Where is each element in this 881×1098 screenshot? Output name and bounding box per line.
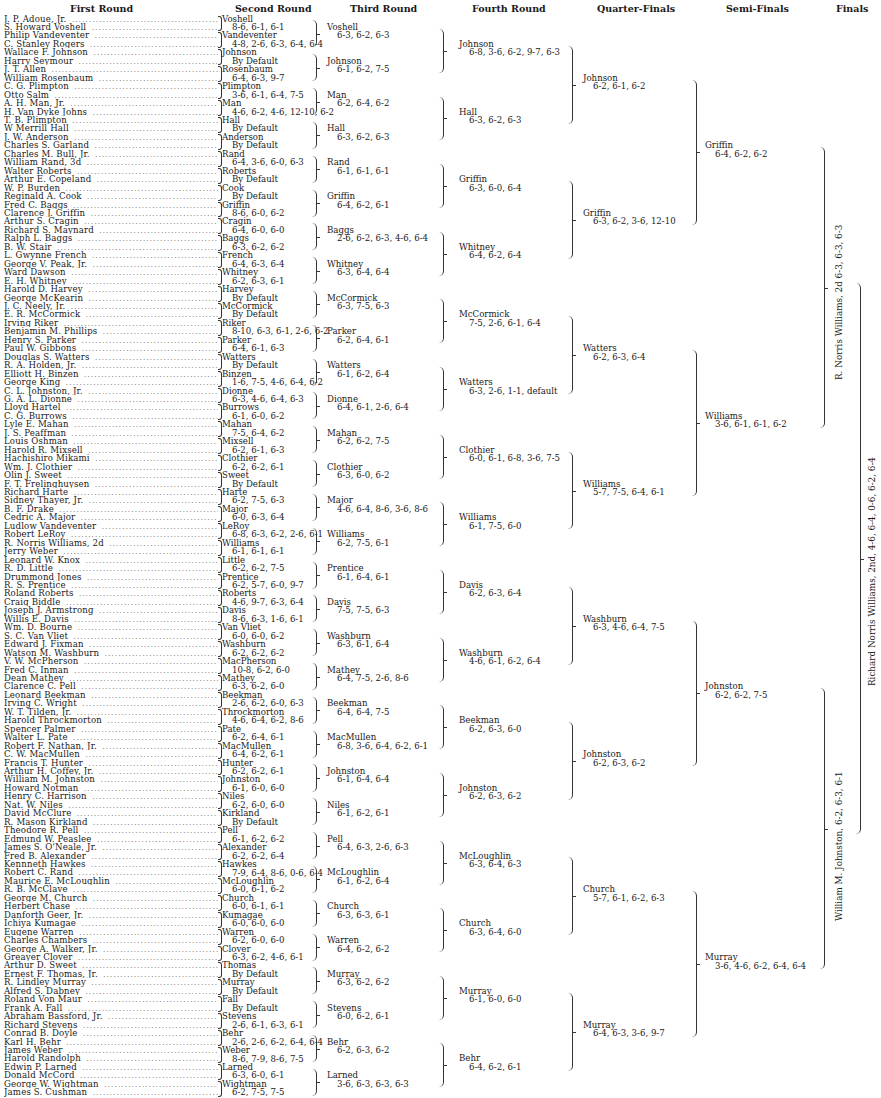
leader-dots: ........................................… bbox=[91, 142, 218, 150]
fourth-round-winner: Washburn4-6, 6-1, 6-2, 6-4 bbox=[459, 649, 541, 666]
player-name: Harry Seymour bbox=[4, 57, 75, 66]
match-score: 6-2, 6-4, 6-2 bbox=[327, 99, 389, 108]
player-name: W. P. Burden bbox=[4, 184, 62, 193]
player-name: B. F. Drake bbox=[4, 505, 56, 514]
first-round-player: Charles S. Garland .....................… bbox=[4, 141, 218, 150]
player-name: Paul W. Gibbons bbox=[4, 344, 78, 353]
player-name: J. C. Neely, Jr. bbox=[4, 302, 67, 311]
second-round-winner: Weber8-6, 7-9, 8-6, 7-5 bbox=[222, 1046, 304, 1063]
leader-dots: ........................................… bbox=[74, 396, 218, 404]
leader-dots: ........................................… bbox=[97, 776, 218, 784]
quarter-finals-winner: Murray6-4, 6-3, 3-6, 9-7 bbox=[583, 1021, 665, 1038]
match-score: 6-4, 6-2, 6-1 bbox=[459, 1063, 521, 1072]
match-bracket bbox=[437, 1043, 444, 1087]
third-round-winner: Washburn6-3, 6-1, 6-4 bbox=[327, 632, 389, 649]
match-score: 4-6, 6-1, 6-2, 6-4 bbox=[459, 657, 541, 666]
leader-dots: ........................................… bbox=[63, 599, 219, 607]
match-score: 6-1, 6-0, 6-0 bbox=[459, 995, 521, 1004]
second-round-winner: Whitney6-2, 6-3, 6-1 bbox=[222, 268, 284, 285]
first-round-player: Roland Roberts .........................… bbox=[4, 589, 218, 598]
player-name: E. H. Whitney bbox=[4, 277, 69, 286]
first-round-player: Ward Dawson ............................… bbox=[4, 268, 218, 277]
match-score: 6-0, 6-2, 6-1 bbox=[327, 1012, 389, 1021]
second-round-winner: Major6-0, 6-3, 6-4 bbox=[222, 505, 284, 522]
first-round-player: David McClure ..........................… bbox=[4, 809, 218, 818]
match-bracket bbox=[437, 97, 444, 141]
match-score: 6-3, 6-4, 6-3 bbox=[459, 860, 521, 869]
first-round-player: Wm. J. Clothier ........................… bbox=[4, 463, 218, 472]
fourth-round-winner: Watters6-3, 2-6, 1-1, default bbox=[459, 378, 558, 395]
fourth-round-winner: Johnston6-2, 6-3, 6-2 bbox=[459, 784, 521, 801]
leader-dots: ........................................… bbox=[67, 303, 218, 311]
first-round-player: R. A. Holden, Jr. ......................… bbox=[4, 361, 218, 370]
player-name: Leonard W. Knox bbox=[4, 556, 82, 565]
fourth-round-winner: Whitney6-4, 6-2, 6-4 bbox=[459, 243, 521, 260]
player-name: Watson M. Washburn bbox=[4, 649, 101, 658]
first-round-player: F. T. Frelinghuysen ....................… bbox=[4, 480, 218, 489]
match-score: 3-6, 4-6, 6-2, 6-4, 6-4 bbox=[705, 962, 806, 971]
header-fourth-round: Fourth Round bbox=[472, 3, 546, 14]
player-name: Cedric A. Major bbox=[4, 513, 77, 522]
first-round-player: Ernest F. Thomas, Jr. ..................… bbox=[4, 970, 218, 979]
third-round-winner: McLoughlin6-1, 6-2, 6-4 bbox=[327, 868, 389, 885]
match-bracket bbox=[690, 621, 697, 766]
match-score: 5-7, 6-1, 6-2, 6-3 bbox=[583, 894, 665, 903]
leader-dots: ........................................… bbox=[100, 946, 218, 954]
quarter-finals-winner: Williams5-7, 7-5, 6-4, 6-1 bbox=[583, 480, 665, 497]
match-score: 6-3, 6-4, 6-4 bbox=[327, 268, 389, 277]
third-round-winner: Man6-2, 6-4, 6-2 bbox=[327, 91, 389, 108]
leader-dots: ........................................… bbox=[90, 819, 218, 827]
first-round-player: Conrad B. Doyle ........................… bbox=[4, 1029, 218, 1038]
player-name: George A. Walker, Jr. bbox=[4, 945, 100, 954]
first-round-player: Willis E. Davis ........................… bbox=[4, 615, 218, 624]
match-bracket bbox=[690, 350, 697, 495]
player-name: Benjamin M. Phillips bbox=[4, 327, 99, 336]
player-name: Nat. W. Niles bbox=[4, 801, 65, 810]
leader-dots: ........................................… bbox=[96, 768, 219, 776]
leader-dots: ........................................… bbox=[79, 362, 219, 370]
match-bracket bbox=[310, 798, 317, 825]
leader-dots: ........................................… bbox=[62, 379, 218, 387]
second-round-winner: Throckmorton4-6, 6-4, 6-2, 8-6 bbox=[222, 708, 304, 725]
leader-dots: ........................................… bbox=[78, 345, 218, 353]
first-round-player: William Rand, 3d .......................… bbox=[4, 158, 218, 167]
first-round-player: Henry S. Parker ........................… bbox=[4, 336, 218, 345]
leader-dots: ........................................… bbox=[75, 869, 218, 877]
leader-dots: ........................................… bbox=[76, 929, 218, 937]
leader-dots: ........................................… bbox=[93, 176, 218, 184]
match-score: 6-3, 6-4, 6-0 bbox=[459, 928, 521, 937]
leader-dots: ........................................… bbox=[76, 590, 218, 598]
leader-dots: ........................................… bbox=[60, 320, 218, 328]
first-round-player: Benjamin M. Phillips ...................… bbox=[4, 327, 218, 336]
third-round-winner: Whitney6-3, 6-4, 6-4 bbox=[327, 260, 389, 277]
leader-dots: ........................................… bbox=[62, 185, 218, 193]
match-score: 6-2, 6-3, 6-4 bbox=[459, 589, 521, 598]
semi-finals-winner: Griffin6-4, 6-2, 6-2 bbox=[705, 141, 767, 158]
match-score: 6-2, 6-3, 6-2 bbox=[327, 1046, 389, 1055]
leader-dots: ........................................… bbox=[83, 1055, 218, 1063]
second-round-winner: Niles6-2, 6-0, 6-0 bbox=[222, 792, 284, 809]
match-bracket bbox=[310, 528, 317, 555]
third-round-winner: Watters6-1, 6-2, 6-4 bbox=[327, 361, 389, 378]
match-bracket bbox=[437, 705, 444, 749]
fourth-round-winner: Hall6-3, 6-2, 6-3 bbox=[459, 108, 521, 125]
match-bracket bbox=[690, 80, 697, 225]
player-name: Ludlow Vandeventer bbox=[4, 522, 98, 531]
leader-dots: ........................................… bbox=[80, 658, 218, 666]
quarter-finals-winner: Johnston6-2, 6-3, 6-2 bbox=[583, 750, 645, 767]
match-bracket bbox=[437, 299, 444, 343]
match-score: 6-2, 6-3, 6-4 bbox=[583, 353, 645, 362]
first-round-player: Arthur D. Sweet ........................… bbox=[4, 961, 218, 970]
first-round-player: Francis T. Hunter ......................… bbox=[4, 759, 218, 768]
player-name: R. B. McClave bbox=[4, 885, 70, 894]
leader-dots: ........................................… bbox=[88, 24, 218, 32]
player-name: G. A. L. Dionne bbox=[4, 395, 74, 404]
match-bracket bbox=[310, 190, 317, 217]
match-score: 3-6, 6-3, 6-3, 6-3 bbox=[327, 1080, 409, 1089]
second-round-winner: MacMullen6-4, 6-2, 6-1 bbox=[222, 742, 284, 759]
leader-dots: ........................................… bbox=[92, 455, 218, 463]
player-name: Edward J. Fixman bbox=[4, 640, 86, 649]
leader-dots: ........................................… bbox=[85, 497, 218, 505]
third-round-winner: Clothier6-3, 6-0, 6-2 bbox=[327, 463, 389, 480]
match-bracket bbox=[310, 832, 317, 859]
